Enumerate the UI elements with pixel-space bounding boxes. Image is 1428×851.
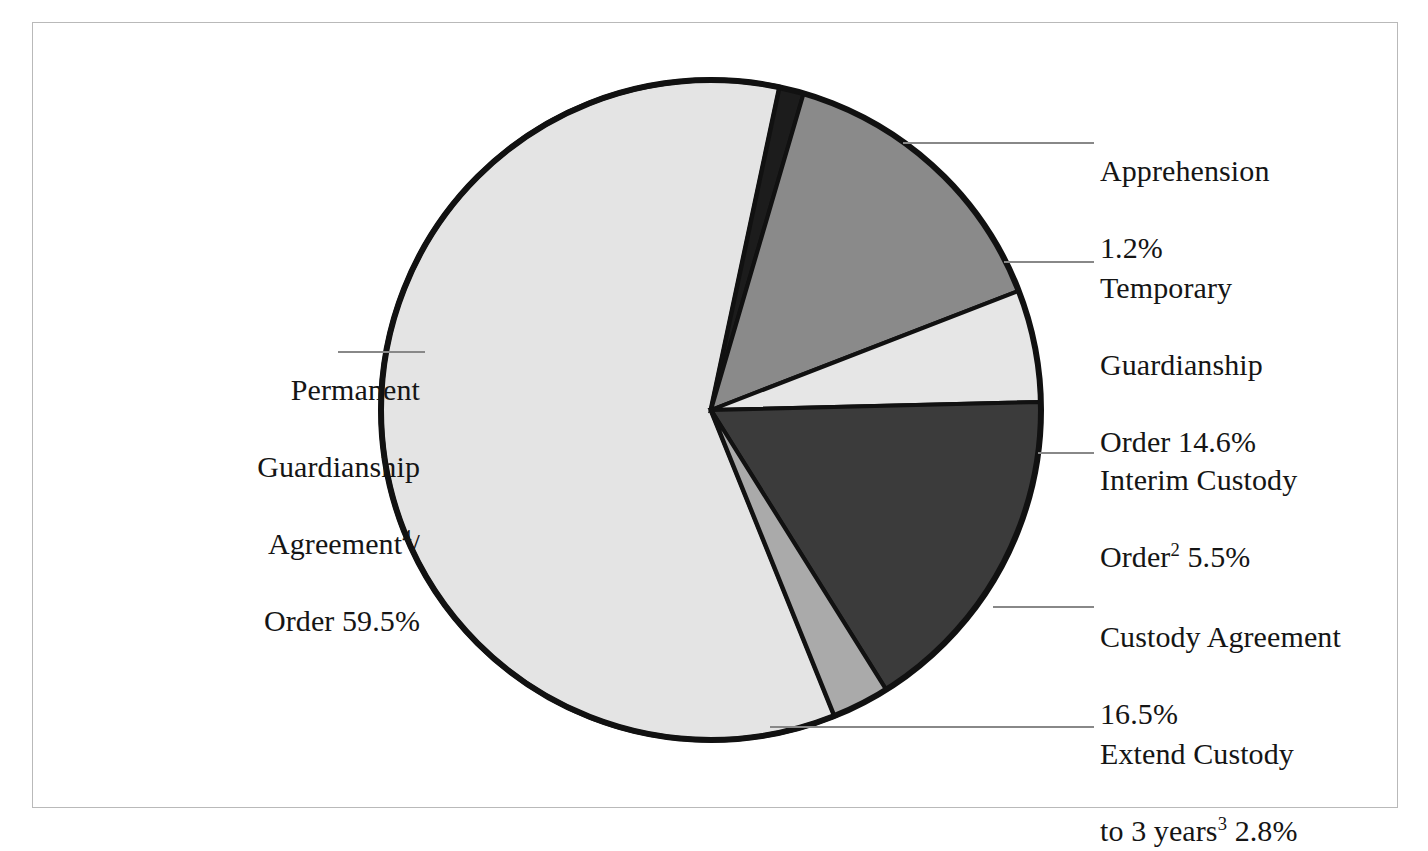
label-permanent-line2: Guardianship [257,450,420,483]
footnote-marker-3: 3 [1218,813,1227,834]
label-extend-line2-post: 2.8% [1227,814,1298,847]
label-extend-line1: Extend Custody [1100,737,1294,770]
label-permanent-line3-pre: Agreement [268,527,402,560]
label-permanent-guardianship: Permanent Guardianship Agreement4/ Order… [120,333,420,640]
label-permanent-line1: Permanent [291,373,420,406]
label-interim-line2-post: 5.5% [1180,540,1251,573]
footnote-marker-2: 2 [1170,539,1179,560]
label-interim-line2-pre: Order [1100,540,1170,573]
label-extend-custody: Extend Custody to 3 years3 2.8% [1100,697,1420,851]
label-custody-agreement-line1: Custody Agreement [1100,620,1341,653]
label-apprehension-line1: Apprehension [1100,154,1270,187]
label-temporary-line2: Guardianship [1100,348,1263,381]
label-temporary-line1: Temporary [1100,271,1232,304]
label-extend-line2-pre: to 3 years [1100,814,1218,847]
label-permanent-line4: Order 59.5% [264,604,420,637]
label-interim-custody: Interim Custody Order2 5.5% [1100,423,1410,577]
footnote-marker-4: 4 [402,526,411,547]
label-interim-line1: Interim Custody [1100,463,1297,496]
label-permanent-line3-post: / [412,527,420,560]
